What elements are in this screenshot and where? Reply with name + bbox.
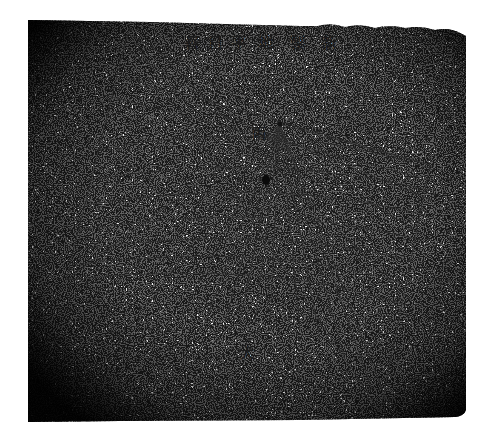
mark-bing: 丙 — [252, 125, 266, 141]
title-char-6: 晷 — [185, 34, 200, 52]
title-char-4: 平 — [232, 34, 247, 52]
mark-da: 大 — [240, 345, 254, 361]
title-char-2: 製 — [290, 34, 305, 52]
gnomon-apex — [278, 122, 283, 127]
stone-slab: 新 製 地 平 日 晷 丙 大 — [0, 0, 487, 447]
title-char-5: 日 — [208, 34, 223, 52]
sundial-photo: 新 製 地 平 日 晷 丙 大 — [0, 0, 487, 447]
title-char-3: 地 — [258, 34, 273, 52]
gnomon-hole — [262, 175, 270, 185]
title-char-1: 新 — [322, 34, 337, 52]
